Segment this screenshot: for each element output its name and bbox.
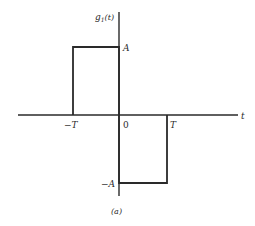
tick-label-neg-T: −T: [64, 120, 79, 130]
x-axis-label: t: [241, 111, 245, 121]
y-axis-label: g1(t): [95, 12, 114, 23]
level-label-pos-A: A: [122, 43, 130, 53]
figure-caption: (a): [111, 207, 122, 216]
tick-label-pos-T: T: [170, 120, 177, 130]
waveform-diagram: g1(t) t −T 0 T A −A (a): [0, 0, 255, 226]
positive-pulse: [73, 47, 119, 115]
level-label-neg-A: −A: [101, 179, 116, 189]
tick-label-zero: 0: [123, 120, 129, 130]
